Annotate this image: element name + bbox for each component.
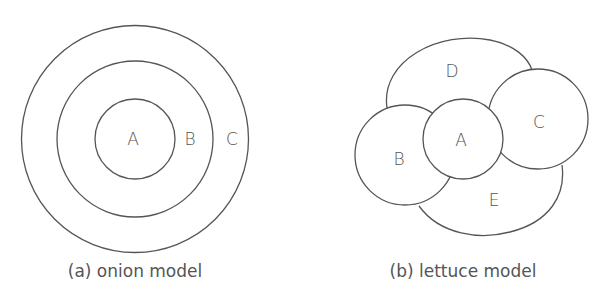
lettuce-label-b: B	[393, 149, 404, 169]
lettuce-label-c: C	[533, 112, 545, 132]
onion-label-b: B	[184, 129, 195, 149]
lettuce-label-e: E	[489, 190, 500, 210]
lettuce-caption: (b) lettuce model	[390, 261, 537, 281]
lettuce-model	[355, 38, 588, 235]
diagram-canvas: A B C (a) onion model A B C D E (b) lett…	[0, 0, 595, 307]
onion-caption: (a) onion model	[68, 261, 203, 281]
onion-label-c: C	[226, 129, 238, 149]
onion-label-a: A	[127, 129, 139, 149]
lettuce-label-a: A	[455, 130, 467, 150]
lettuce-label-d: D	[445, 61, 458, 81]
